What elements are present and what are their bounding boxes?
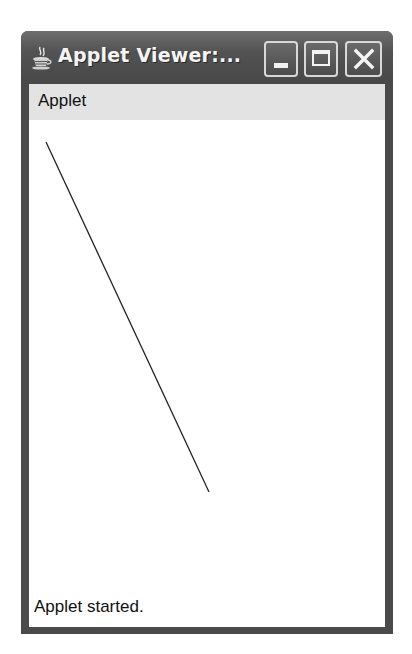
drawn-line bbox=[46, 142, 209, 492]
applet-viewer-window: Applet Viewer:... Applet Applet started. bbox=[21, 31, 393, 634]
java-coffee-cup-icon bbox=[31, 45, 53, 71]
maximize-icon bbox=[312, 50, 330, 66]
close-button[interactable] bbox=[345, 41, 382, 77]
minimize-button[interactable] bbox=[264, 41, 298, 77]
window-title: Applet Viewer:... bbox=[58, 44, 241, 66]
status-text: Applet started. bbox=[34, 597, 144, 617]
menu-applet[interactable]: Applet bbox=[38, 91, 86, 111]
maximize-button[interactable] bbox=[304, 41, 338, 77]
minimize-icon bbox=[274, 63, 288, 68]
title-bar[interactable]: Applet Viewer:... bbox=[21, 31, 393, 84]
applet-canvas bbox=[29, 120, 385, 590]
applet-content-area[interactable]: Applet started. bbox=[29, 120, 385, 627]
menu-bar: Applet bbox=[29, 84, 385, 120]
close-icon bbox=[351, 46, 377, 72]
